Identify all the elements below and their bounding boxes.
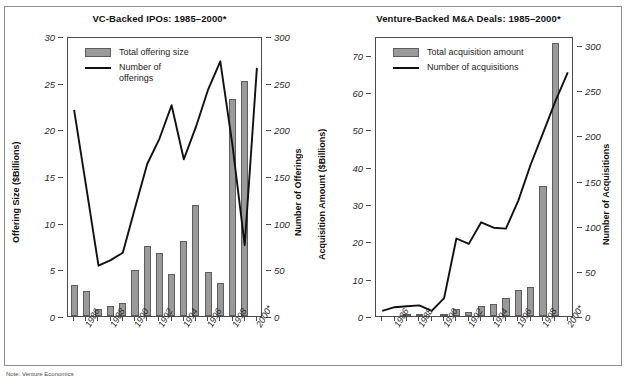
y-tick-mark xyxy=(58,84,63,85)
x-tick-mark xyxy=(97,317,98,321)
legend-label-line-left: Number of offerings xyxy=(119,62,161,84)
x-tick-mark xyxy=(530,317,531,321)
y2-tick-label: 200 xyxy=(585,131,601,142)
x-tick-mark xyxy=(171,317,172,321)
y-tick-label: 30 xyxy=(352,200,363,211)
legend-item-line-left: Number of offerings xyxy=(85,62,189,84)
legend-right: Total acquisition amount Number of acqui… xyxy=(393,47,524,77)
y-axis-ticks-right-primary: 010203040506070 xyxy=(325,37,371,317)
y-axis-ticks-left-secondary: 050100150200250300 xyxy=(266,37,312,317)
y-tick-label: 5 xyxy=(50,265,55,276)
y2-tick-mark xyxy=(577,46,582,47)
y2-tick-mark xyxy=(577,91,582,92)
y-tick-label: 40 xyxy=(352,162,363,173)
y-tick-mark xyxy=(366,205,371,206)
x-tick-mark xyxy=(480,317,481,321)
x-tick-mark xyxy=(244,317,245,321)
y2-tick-label: 250 xyxy=(585,86,601,97)
y-tick-mark xyxy=(58,37,63,38)
y2-tick-label: 100 xyxy=(585,221,601,232)
y-tick-label: 10 xyxy=(44,218,55,229)
y-tick-label: 25 xyxy=(44,78,55,89)
figure-frame: VC-Backed IPOs: 1985–2000* Offering Size… xyxy=(4,6,622,366)
x-tick-mark xyxy=(505,317,506,321)
legend-item-line-right: Number of acquisitions xyxy=(393,62,524,73)
y2-tick-label: 50 xyxy=(585,266,596,277)
x-tick-mark xyxy=(381,317,382,321)
y2-tick-mark xyxy=(266,270,271,271)
y-tick-label: 60 xyxy=(352,88,363,99)
x-tick-mark xyxy=(554,317,555,321)
legend-label-bar-right: Total acquisition amount xyxy=(427,47,524,58)
line-series-right xyxy=(376,38,574,318)
y2-tick-mark xyxy=(577,136,582,137)
y-tick-mark xyxy=(366,317,371,318)
plot-area-right xyxy=(375,37,573,317)
y-tick-label: 30 xyxy=(44,32,55,43)
chart-panel-vc-backed-ipos: VC-Backed IPOs: 1985–2000* Offering Size… xyxy=(5,7,314,367)
y-tick-mark xyxy=(58,130,63,131)
y-tick-mark xyxy=(58,224,63,225)
y2-tick-mark xyxy=(577,227,582,228)
x-tick-mark xyxy=(146,317,147,321)
chart-title-left: VC-Backed IPOs: 1985–2000* xyxy=(5,13,314,24)
legend-line-icon xyxy=(85,67,111,69)
legend-left: Total offering size Number of offerings xyxy=(85,47,189,88)
y-tick-label: 70 xyxy=(352,50,363,61)
y-tick-mark xyxy=(366,56,371,57)
y2-tick-label: 150 xyxy=(585,176,601,187)
y-tick-label: 0 xyxy=(358,312,363,323)
y2-tick-label: 200 xyxy=(274,125,290,136)
legend-label-line-right: Number of acquisitions xyxy=(427,62,519,73)
y2-tick-label: 0 xyxy=(585,312,590,323)
y-tick-label: 0 xyxy=(50,312,55,323)
x-tick-mark xyxy=(219,317,220,321)
y2-tick-mark xyxy=(266,84,271,85)
y-tick-label: 50 xyxy=(352,125,363,136)
y2-tick-label: 250 xyxy=(274,78,290,89)
y2-tick-label: 100 xyxy=(274,218,290,229)
y-tick-mark xyxy=(366,93,371,94)
y2-tick-mark xyxy=(266,130,271,131)
y2-tick-label: 0 xyxy=(274,312,279,323)
legend-line-icon xyxy=(393,67,419,69)
legend-swatch-bar-icon xyxy=(393,48,419,57)
x-tick-mark xyxy=(73,317,74,321)
y-tick-mark xyxy=(366,242,371,243)
y2-tick-mark xyxy=(577,272,582,273)
y-tick-label: 15 xyxy=(44,172,55,183)
y-tick-mark xyxy=(366,280,371,281)
x-tick-mark xyxy=(122,317,123,321)
y-tick-mark xyxy=(58,317,63,318)
legend-label-bar-left: Total offering size xyxy=(119,47,189,58)
y2-tick-label: 150 xyxy=(274,172,290,183)
y2-tick-mark xyxy=(266,177,271,178)
figure-note: Note: Venture Economics xyxy=(6,371,606,381)
y2-tick-mark xyxy=(266,224,271,225)
y-tick-mark xyxy=(58,270,63,271)
y-tick-label: 20 xyxy=(352,237,363,248)
y-axis-ticks-right-secondary: 050100150200250300 xyxy=(577,37,623,317)
x-tick-mark xyxy=(455,317,456,321)
y2-tick-label: 50 xyxy=(274,265,285,276)
y2-tick-mark xyxy=(577,182,582,183)
y-tick-mark xyxy=(366,168,371,169)
y-tick-mark xyxy=(366,130,371,131)
chart-title-right: Venture-Backed M&A Deals: 1985–2000* xyxy=(314,13,623,24)
y-tick-mark xyxy=(58,177,63,178)
legend-swatch-bar-icon xyxy=(85,48,111,57)
y2-tick-label: 300 xyxy=(274,32,290,43)
y-tick-label: 20 xyxy=(44,125,55,136)
x-tick-mark xyxy=(195,317,196,321)
legend-item-bar-right: Total acquisition amount xyxy=(393,47,524,58)
y2-tick-mark xyxy=(266,37,271,38)
y-axis-ticks-left-primary: 051015202530 xyxy=(17,37,63,317)
y-tick-label: 10 xyxy=(352,274,363,285)
legend-item-bar-left: Total offering size xyxy=(85,47,189,58)
x-tick-mark xyxy=(431,317,432,321)
y2-tick-label: 300 xyxy=(585,41,601,52)
x-tick-mark xyxy=(406,317,407,321)
